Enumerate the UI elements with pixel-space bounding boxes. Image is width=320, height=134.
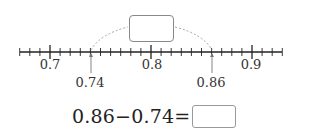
pointer-arrow-0-86-icon [210, 53, 214, 57]
point-label-0-74: 0.74 [76, 76, 105, 89]
difference-input-box[interactable] [129, 15, 174, 42]
answer-input-box[interactable] [192, 105, 236, 128]
major-tick-label-0-7: 0.7 [40, 58, 61, 71]
subtraction-equation: 0.86−0.74= [72, 104, 236, 128]
dashed-arc-left [91, 27, 128, 50]
major-tick-label-0-9: 0.9 [241, 58, 262, 71]
point-label-0-86: 0.86 [197, 76, 226, 89]
dashed-arc-right [175, 27, 212, 50]
equation-text: 0.86−0.74= [72, 105, 190, 127]
pointer-arrow-0-74-icon [89, 53, 93, 57]
major-tick-label-0-8: 0.8 [142, 58, 163, 71]
